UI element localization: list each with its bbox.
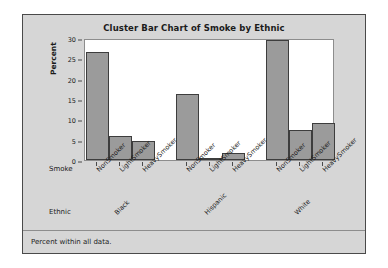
y-axis-tick-label: 5 [72,138,76,146]
group-axis-label: Hispanic [203,191,228,216]
y-axis-tick-mark [78,162,82,163]
chart-panel: Cluster Bar Chart of Smoke by Ethnic Per… [22,14,366,254]
footer-divider [23,230,365,231]
y-axis-tick-mark [78,101,82,102]
y-axis-tick-label: 15 [68,97,76,105]
group-axis-label: Black [113,199,131,217]
y-axis-tick-mark [78,121,82,122]
chart-title: Cluster Bar Chart of Smoke by Ethnic [23,23,365,33]
bar [176,94,199,160]
footer-note: Percent within all data. [31,238,111,246]
y-axis-tick-label: 25 [68,56,76,64]
y-axis-tick-mark [78,40,82,41]
y-axis-tick-mark [78,60,82,61]
bar [266,40,289,160]
y-axis-tick-label: 30 [68,36,76,44]
group-axis-label: White [293,198,312,217]
smoke-axis-title: Smoke [49,165,73,173]
y-axis-tick-mark [78,141,82,142]
bar [86,52,109,160]
y-axis-tick-label: 10 [68,117,76,125]
ethnic-axis-title: Ethnic [49,208,71,216]
y-axis-tick-label: 20 [68,77,76,85]
y-axis-tick-mark [78,80,82,81]
y-axis: 051015202530 [23,39,84,162]
